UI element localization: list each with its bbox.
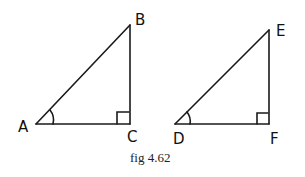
right-angle-mark-c — [117, 112, 129, 124]
vertex-label-d: D — [173, 130, 185, 148]
side-de — [175, 30, 269, 124]
vertex-label-a: A — [18, 118, 29, 136]
figure-canvas: A B C D E F fig 4.62 — [0, 0, 305, 177]
vertex-label-c: C — [127, 128, 137, 146]
angle-arc-d — [187, 112, 190, 124]
vertex-label-b: B — [135, 11, 145, 29]
side-ab — [36, 25, 130, 124]
vertex-label-e: E — [276, 22, 285, 40]
triangle-def — [175, 30, 269, 124]
vertex-label-f: F — [270, 130, 279, 148]
right-angle-mark-f — [257, 113, 268, 124]
angle-arc-a — [50, 110, 54, 124]
triangle-abc — [36, 25, 130, 124]
figure-caption: fig 4.62 — [130, 150, 170, 165]
